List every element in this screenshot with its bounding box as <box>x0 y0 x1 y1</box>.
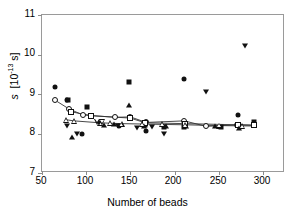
data-point-filled-triangle-down <box>161 132 167 137</box>
data-point-open-triangle-down <box>99 119 105 125</box>
data-point-filled-triangle-up <box>126 103 132 108</box>
x-tick-label: 150 <box>109 176 149 186</box>
x-axis-tick <box>263 171 264 175</box>
data-point-open-triangle-up <box>216 123 222 129</box>
data-point-open-square <box>251 122 257 128</box>
x-axis-tick <box>219 171 220 175</box>
x-tick-label: 100 <box>65 176 105 186</box>
data-point-filled-triangle-down <box>134 125 140 130</box>
x-tick-label: 50 <box>21 176 61 186</box>
data-point-filled-square <box>85 105 90 110</box>
data-point-filled-triangle-down <box>64 124 70 129</box>
data-point-open-triangle-up <box>63 117 69 123</box>
x-tick-label: 300 <box>242 176 282 186</box>
data-point-filled-triangle-down <box>149 124 155 129</box>
data-point-filled-circle <box>182 76 187 81</box>
data-point-open-triangle-up <box>182 122 188 128</box>
data-point-open-square <box>68 109 74 115</box>
data-point-filled-square <box>127 80 132 85</box>
data-point-open-circle <box>203 123 209 129</box>
y-axis-symbol: s <box>8 94 20 99</box>
data-point-open-circle <box>52 97 58 103</box>
x-tick-label: 200 <box>153 176 193 186</box>
y-axis-title-wrapper: s [10-13 s] <box>4 10 20 142</box>
y-axis-tick <box>38 94 42 95</box>
data-point-open-triangle-up <box>71 118 77 124</box>
data-point-filled-circle <box>236 113 241 118</box>
data-point-filled-triangle-down <box>203 89 209 94</box>
y-axis-tick <box>38 134 42 135</box>
x-tick-label: 250 <box>198 176 238 186</box>
y-axis-unit-exponent: -13 <box>7 64 14 74</box>
y-axis-tick <box>38 15 42 16</box>
data-point-filled-circle <box>53 85 58 90</box>
x-axis-tick <box>130 171 131 175</box>
data-point-open-triangle-up <box>239 123 245 129</box>
plot-area <box>41 14 284 172</box>
data-point-filled-triangle-down <box>115 123 121 128</box>
data-point-filled-triangle-down <box>242 43 248 48</box>
data-point-filled-triangle-down <box>74 131 80 136</box>
data-point-open-circle <box>80 112 86 118</box>
data-point-open-square <box>127 115 133 121</box>
chart-figure: 11 10 9 8 7 50 100 150 200 250 300 Numbe… <box>0 0 295 218</box>
data-point-filled-circle <box>144 129 149 134</box>
y-axis-title: s [10-13 s] <box>4 10 21 142</box>
data-point-open-triangle-up <box>107 120 113 126</box>
x-axis-tick <box>175 171 176 175</box>
x-axis-title: Number of beads <box>0 196 295 208</box>
data-point-open-circle <box>112 114 118 120</box>
x-axis-tick <box>42 171 43 175</box>
data-point-open-triangle-up <box>159 121 165 127</box>
y-axis-unit-open: [10 <box>8 74 20 89</box>
y-axis-tick <box>38 55 42 56</box>
data-point-filled-square <box>65 97 70 102</box>
y-axis-unit-close: s] <box>8 53 20 64</box>
x-axis-tick <box>86 171 87 175</box>
trendline-layer <box>42 15 285 173</box>
